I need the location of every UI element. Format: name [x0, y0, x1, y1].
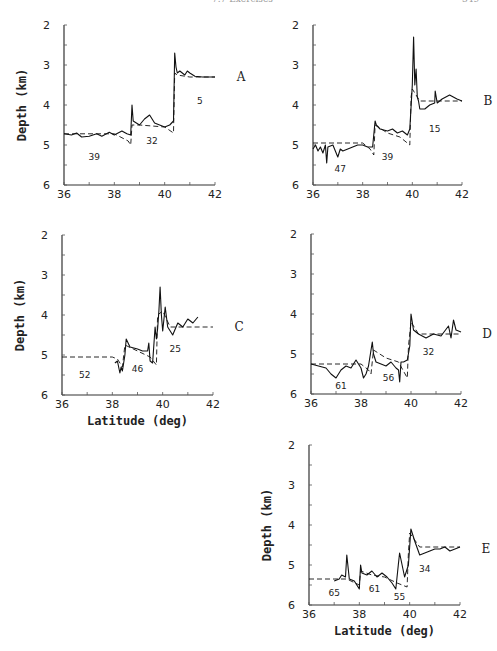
panel-a-panel-label: A	[236, 70, 246, 84]
panel-d-y-tick-label: 6	[290, 388, 297, 401]
panel-c-y-tick-label: 6	[41, 389, 48, 402]
panel-e-segment-count-label: 65	[328, 588, 339, 598]
panel-e-y-axis-label: Depth (km)	[260, 489, 274, 561]
panel-c-panel-label: C	[234, 320, 243, 334]
panel-c-x-axis-label: Latitude (deg)	[87, 414, 188, 428]
panel-b-observed-line	[313, 37, 462, 163]
panel-b-segment-count-label: 47	[335, 164, 346, 174]
panel-a-x-tick-label: 40	[158, 188, 172, 201]
panel-b-model-line	[313, 89, 462, 155]
panel-a-segment-count-label: 39	[88, 152, 100, 162]
panel-e-panel-label: E	[482, 542, 491, 556]
panel-a-y-tick-label: 4	[43, 99, 50, 112]
panel-d-y-tick-label: 2	[290, 228, 297, 241]
panel-e-y-tick-label: 3	[288, 479, 295, 492]
panel-d-model-line	[311, 322, 461, 378]
panel-b-x-tick-label: 38	[356, 188, 370, 201]
panel-d-segment-count-label: 61	[335, 381, 346, 391]
panel-a-segment-count-label: 32	[146, 136, 157, 146]
panel-b-segment-count-label: 15	[429, 124, 440, 134]
panel-b-y-tick-label: 5	[292, 139, 299, 152]
panel-a-x-tick-label: 42	[208, 188, 222, 201]
panel-d-y-tick-label: 5	[290, 348, 297, 361]
panel-d-x-tick-label: 36	[304, 397, 318, 410]
figure-panels: 2345636384042Depth (km)39325A23456363840…	[0, 0, 497, 651]
panel-b-y-tick-label: 6	[292, 179, 299, 192]
panel-e-model-line	[309, 533, 460, 587]
panel-c-y-tick-label: 4	[41, 309, 48, 322]
panel-b-x-tick-label: 36	[306, 188, 320, 201]
panel-a-y-tick-label: 3	[43, 59, 50, 72]
panel-b-x-tick-label: 42	[455, 188, 469, 201]
panel-b-segment-count-label: 39	[382, 152, 394, 162]
panel-c-y-tick-label: 2	[41, 229, 48, 242]
panel-c-y-tick-label: 5	[41, 349, 48, 362]
panel-d-x-tick-label: 42	[454, 397, 468, 410]
panel-c-segment-count-label: 25	[170, 344, 181, 354]
panel-a-x-tick-label: 38	[107, 188, 121, 201]
panel-e-y-tick-label: 4	[288, 519, 295, 532]
panel-d-panel-label: D	[482, 327, 492, 341]
panel-e-x-tick-label: 40	[403, 608, 417, 621]
panel-e-y-tick-label: 6	[288, 599, 295, 612]
panel-b-panel-label: B	[484, 94, 493, 108]
panel-c-model-line	[62, 311, 213, 367]
panel-a-x-tick-label: 36	[57, 188, 71, 201]
panel-d-segment-count-label: 56	[383, 373, 395, 383]
panel-b-y-tick-label: 4	[292, 99, 299, 112]
panel-e-segment-count-label: 34	[419, 564, 431, 574]
panel-c-y-tick-label: 3	[41, 269, 48, 282]
panel-e-segment-count-label: 55	[394, 592, 405, 602]
panel-c-segment-count-label: 46	[132, 364, 144, 374]
panel-a-segment-count-label: 5	[197, 96, 203, 106]
panel-c-x-tick-label: 38	[105, 398, 119, 411]
panel-e-y-tick-label: 5	[288, 559, 295, 572]
panel-b-y-tick-label: 2	[292, 19, 299, 32]
panel-a-y-tick-label: 5	[43, 139, 50, 152]
panel-e-x-axis-label: Latitude (deg)	[334, 624, 435, 638]
panel-a-model-line	[64, 73, 215, 145]
panel-b-y-tick-label: 3	[292, 59, 299, 72]
panel-e-segment-count-label: 61	[369, 584, 380, 594]
panel-c-x-tick-label: 40	[156, 398, 170, 411]
panel-b-x-tick-label: 40	[405, 188, 419, 201]
panel-d-x-tick-label: 38	[354, 397, 368, 410]
panel-a-y-tick-label: 6	[43, 179, 50, 192]
panel-e-x-tick-label: 38	[352, 608, 366, 621]
panel-d-x-tick-label: 40	[404, 397, 418, 410]
panel-c-y-axis-label: Depth (km)	[13, 279, 27, 351]
panel-d-segment-count-label: 32	[423, 347, 434, 357]
panel-a-y-axis-label: Depth (km)	[15, 69, 29, 141]
panel-c-x-tick-label: 42	[206, 398, 220, 411]
panel-e-x-tick-label: 42	[453, 608, 467, 621]
panel-e-y-tick-label: 2	[288, 439, 295, 452]
panel-a-y-tick-label: 2	[43, 19, 50, 32]
panel-a-observed-line	[64, 53, 215, 137]
panel-e-observed-line	[334, 529, 460, 589]
panel-d-y-tick-label: 4	[290, 308, 297, 321]
panel-d-y-tick-label: 3	[290, 268, 297, 281]
panel-e-x-tick-label: 36	[302, 608, 316, 621]
panel-d-observed-line	[311, 314, 461, 382]
panel-c-segment-count-label: 52	[79, 370, 90, 380]
panel-c-x-tick-label: 36	[55, 398, 69, 411]
